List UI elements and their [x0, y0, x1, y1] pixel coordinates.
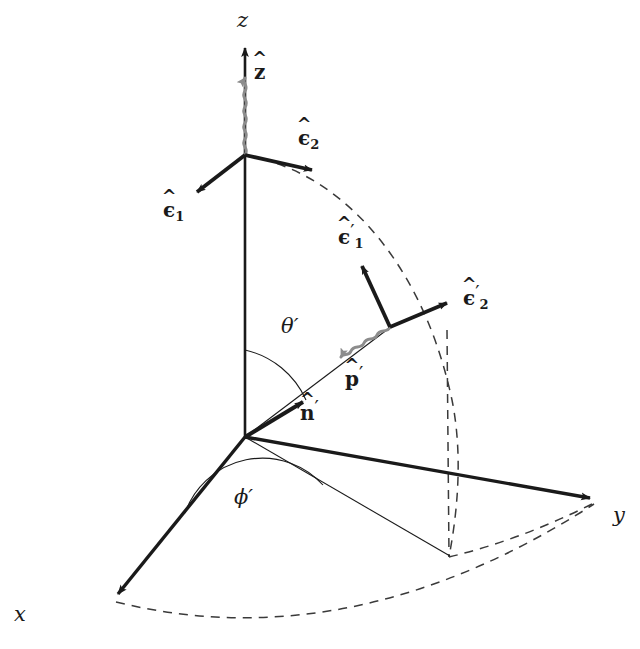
epsilon-1-prime-vector: [362, 266, 390, 327]
n-prime-label: ^n′: [300, 398, 319, 423]
theta-prime-label: θ′: [281, 316, 298, 337]
hat-accent: ^: [337, 215, 352, 233]
hat-accent: ^: [300, 391, 315, 409]
prime-mark: ′: [315, 396, 319, 418]
epsilon-1-subscript: 1: [175, 209, 184, 224]
epsilon-2-prime-subscript: 2: [480, 297, 489, 312]
epsilon-2-prime-vector: [390, 303, 447, 327]
hat-accent: ^: [345, 357, 360, 375]
phi-symbol: ϕ: [234, 485, 248, 509]
epsilon-2-prime-label: ^ϵ′2: [463, 283, 489, 311]
base-to-y-dashed-line: [449, 504, 592, 557]
phi-prime-label: ϕ′: [234, 487, 253, 508]
z-hat-label: ^z: [254, 62, 265, 82]
z-axis-label: z: [237, 10, 248, 31]
n-prime-vector: [245, 402, 303, 437]
epsilon-2-label: ^ϵ2: [298, 128, 319, 151]
theta-symbol: θ: [281, 314, 294, 338]
hat-accent: ^: [162, 188, 177, 206]
x-axis: [118, 437, 245, 594]
scattered-photon-wave: [341, 327, 390, 357]
x-axis-label: x: [14, 604, 26, 625]
epsilon-1-prime-label: ^ϵ′1: [338, 222, 364, 250]
hat-accent: ^: [297, 116, 312, 134]
vertical-drop-dashed-line: [447, 330, 449, 557]
epsilon-1-label: ^ϵ1: [163, 200, 184, 223]
prime-mark: ′: [359, 362, 363, 384]
p-prime-label: ^p′: [345, 364, 363, 389]
epsilon-2-vector: [245, 155, 312, 170]
epsilon-2-subscript: 2: [310, 137, 319, 152]
equator-dashed-arc: [116, 504, 594, 618]
prime-mark: ′: [294, 314, 299, 338]
epsilon-1-prime-subscript: 1: [355, 236, 364, 251]
physics-diagram: z y x ^z ^ϵ1 ^ϵ2 ^ϵ′1 ^ϵ′2 ^n′ ^p′ θ′ ϕ′: [0, 0, 640, 649]
hat-accent: ^: [462, 276, 477, 294]
epsilon-1-vector: [197, 155, 245, 192]
y-axis-label: y: [613, 505, 625, 526]
hat-accent: ^: [252, 50, 267, 68]
theta-prime-arc: [245, 350, 306, 400]
prime-mark: ′: [248, 485, 253, 509]
diagram-canvas: [0, 0, 640, 649]
